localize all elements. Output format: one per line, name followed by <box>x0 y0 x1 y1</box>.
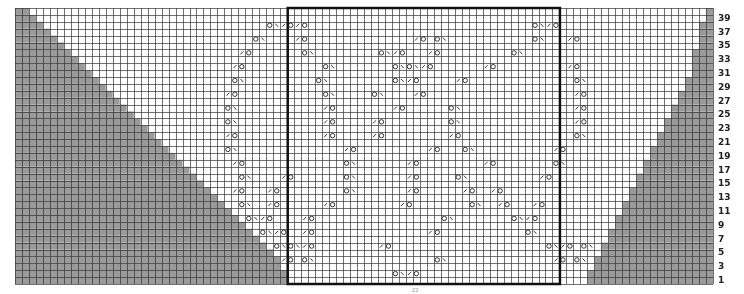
chart-footer-label: 22 <box>412 287 419 293</box>
row-label-1: 1 <box>718 276 724 285</box>
row-label-33: 33 <box>718 55 731 64</box>
row-label-21: 21 <box>718 138 731 147</box>
row-label-19: 19 <box>718 152 731 161</box>
row-label-31: 31 <box>718 69 731 78</box>
row-label-11: 11 <box>718 207 731 216</box>
knitting-chart: 13579111315171921232527293133353739 22 <box>0 0 744 294</box>
row-label-17: 17 <box>718 166 731 175</box>
row-label-7: 7 <box>718 235 724 244</box>
row-label-37: 37 <box>718 28 731 37</box>
row-label-3: 3 <box>718 262 724 271</box>
row-label-25: 25 <box>718 110 731 119</box>
row-label-29: 29 <box>718 83 731 92</box>
row-label-23: 23 <box>718 124 731 133</box>
row-label-15: 15 <box>718 179 731 188</box>
row-label-5: 5 <box>718 248 724 257</box>
chart-grid <box>0 0 744 294</box>
row-label-9: 9 <box>718 221 724 230</box>
row-label-13: 13 <box>718 193 731 202</box>
row-label-35: 35 <box>718 41 731 50</box>
row-label-39: 39 <box>718 14 731 23</box>
row-label-27: 27 <box>718 97 731 106</box>
